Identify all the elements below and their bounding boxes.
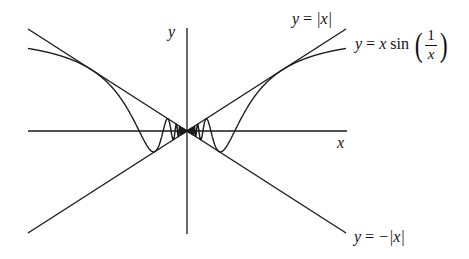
label-neg-abs-x-rhs: −|x| — [378, 228, 405, 245]
label-neg-abs-x: y = −|x| — [354, 229, 405, 245]
label-curve-eq: = — [362, 35, 379, 52]
fraction-numerator: 1 — [425, 28, 437, 46]
fraction-denominator: x — [428, 46, 435, 63]
label-neg-abs-x-eq: = — [361, 228, 378, 245]
y-axis-label: y — [168, 24, 175, 40]
right-paren: ) — [439, 28, 447, 62]
x-axis-label: x — [337, 135, 344, 151]
label-abs-x: y = |x| — [292, 11, 332, 27]
label-abs-x-rhs: |x| — [316, 10, 332, 27]
label-x-sin-inv-x: y = x sin ( 1 x ) — [355, 28, 449, 63]
label-abs-x-eq: = — [299, 10, 316, 27]
label-curve-fn: sin — [386, 35, 409, 52]
left-paren: ( — [415, 28, 423, 62]
label-curve-arg: ( 1 x ) — [413, 28, 449, 63]
fraction-one-over-x: 1 x — [425, 28, 437, 63]
